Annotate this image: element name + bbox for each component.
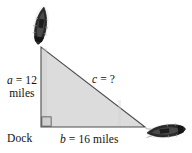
label-side-c: c = ? <box>92 73 115 86</box>
label-side-a-equals: = <box>13 74 26 86</box>
label-side-a-unit: miles <box>9 87 34 99</box>
label-side-b-value: 16 miles <box>78 133 118 145</box>
right-angle-icon <box>42 117 51 126</box>
label-side-b: b = 16 miles <box>60 133 119 146</box>
boat-icon <box>31 5 52 45</box>
label-side-c-equals: = <box>97 73 110 85</box>
triangle-shape <box>41 47 145 127</box>
label-side-a-value: 12 <box>25 74 37 86</box>
label-dock: Dock <box>7 132 32 145</box>
geometry-figure: a = 12 miles b = 16 miles c = ? Dock <box>0 0 192 153</box>
label-side-a: a = 12 miles <box>2 74 42 99</box>
boat-icon <box>145 122 186 140</box>
label-side-b-equals: = <box>66 133 79 145</box>
label-side-c-value: ? <box>110 73 115 85</box>
